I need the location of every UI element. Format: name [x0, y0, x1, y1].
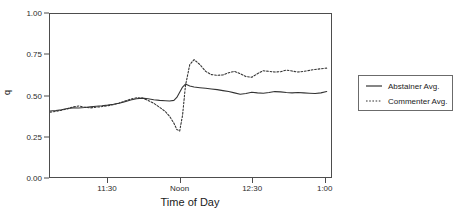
x-axis-tick-label: 12:30 [242, 184, 262, 193]
y-axis-tick-label: 0.50 [26, 91, 42, 100]
y-axis-tick-mark [44, 13, 49, 14]
plot-area [49, 13, 332, 178]
legend-label-abstainer: Abstainer Avg. [388, 82, 439, 91]
x-axis-title: Time of Day [161, 196, 220, 208]
y-axis-tick-mark [44, 136, 49, 137]
legend-item-commenter: Commenter Avg. [365, 95, 447, 107]
y-axis-title: q [2, 90, 12, 95]
series-canvas [50, 14, 331, 177]
y-axis-tick-mark [44, 95, 49, 96]
x-axis-tick-label: Noon [170, 184, 189, 193]
legend-key-dotted-line-icon [365, 96, 383, 106]
y-axis-tick-label: 0.00 [26, 174, 42, 183]
x-axis-tick-label: 1:00 [317, 184, 333, 193]
legend-key-solid-line-icon [365, 81, 383, 91]
y-axis-tick-label: 0.25 [26, 132, 42, 141]
series-line-abstainer-avg [50, 84, 327, 111]
y-axis-tick-label: 0.75 [26, 50, 42, 59]
y-axis-tick-label: 1.00 [26, 9, 42, 18]
legend: Abstainer Avg. Commenter Avg. [358, 75, 453, 111]
x-axis-tick-mark [325, 178, 326, 183]
chart-figure: q 0.000.250.500.751.00 Time of Day Absta… [0, 0, 460, 224]
y-axis-tick-labels: 0.000.250.500.751.00 [14, 0, 42, 224]
x-axis-tick-label: 11:30 [97, 184, 116, 193]
y-axis-tick-mark [44, 178, 49, 179]
series-line-commenter-avg [50, 60, 327, 131]
legend-item-abstainer: Abstainer Avg. [365, 80, 439, 92]
x-axis-tick-mark [252, 178, 253, 183]
y-axis-tick-mark [44, 54, 49, 55]
x-axis-tick-mark [180, 178, 181, 183]
x-axis-tick-mark [107, 178, 108, 183]
legend-label-commenter: Commenter Avg. [388, 97, 447, 106]
